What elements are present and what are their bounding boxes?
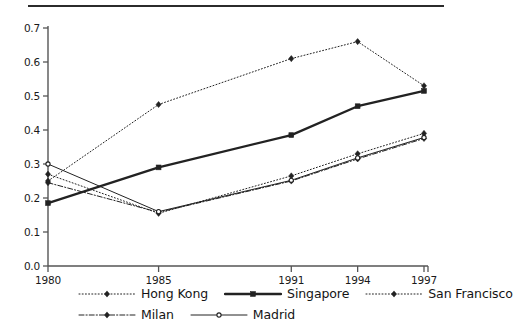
legend-label: San Francisco bbox=[428, 286, 513, 301]
x-tick-label: 1980 bbox=[25, 274, 71, 286]
series-line bbox=[48, 42, 424, 181]
data-point-marker bbox=[355, 39, 360, 45]
series-madrid bbox=[46, 135, 426, 213]
data-point-marker bbox=[289, 56, 294, 62]
data-point-marker bbox=[289, 133, 294, 138]
legend-item-madrid[interactable]: Madrid bbox=[190, 307, 295, 322]
legend-line-sample bbox=[78, 309, 136, 321]
legend-row: MilanMadrid bbox=[78, 304, 450, 325]
y-tick-label: 0.5 bbox=[14, 90, 40, 102]
series-line bbox=[48, 133, 424, 213]
legend-item-hong-kong[interactable]: Hong Kong bbox=[78, 286, 208, 301]
data-point-marker bbox=[422, 135, 426, 139]
legend-item-milan[interactable]: Milan bbox=[78, 307, 174, 322]
legend-line-sample bbox=[190, 309, 248, 321]
series-hong-kong bbox=[45, 39, 426, 185]
data-point-marker bbox=[46, 162, 50, 166]
series-line bbox=[48, 91, 424, 203]
data-point-marker bbox=[45, 171, 50, 177]
legend-row: Hong KongSingaporeSan Francisco bbox=[78, 283, 450, 304]
legend-line-sample bbox=[78, 288, 136, 300]
legend-label: Hong Kong bbox=[141, 286, 208, 301]
legend-item-singapore[interactable]: Singapore bbox=[224, 286, 349, 301]
chart-legend: Hong KongSingaporeSan FranciscoMilanMadr… bbox=[78, 283, 450, 325]
data-point-marker bbox=[355, 104, 360, 109]
y-tick-label: 0.1 bbox=[14, 226, 40, 238]
data-point-marker bbox=[46, 201, 51, 206]
data-point-marker bbox=[421, 83, 426, 89]
y-tick-label: 0.0 bbox=[14, 260, 40, 272]
legend-label: Milan bbox=[141, 307, 174, 322]
legend-label: Singapore bbox=[287, 286, 349, 301]
legend-label: Madrid bbox=[253, 307, 295, 322]
y-tick-label: 0.4 bbox=[14, 124, 40, 136]
data-point-marker bbox=[156, 165, 161, 170]
data-point-marker bbox=[217, 312, 221, 316]
y-tick-label: 0.3 bbox=[14, 158, 40, 170]
legend-line-sample bbox=[224, 288, 282, 300]
series-san-francisco bbox=[45, 130, 426, 216]
legend-item-san-francisco[interactable]: San Francisco bbox=[365, 286, 513, 301]
y-tick-label: 0.6 bbox=[14, 56, 40, 68]
y-tick-label: 0.2 bbox=[14, 192, 40, 204]
legend-line-sample bbox=[365, 288, 423, 300]
data-point-marker bbox=[392, 290, 397, 296]
data-point-marker bbox=[104, 311, 109, 317]
y-tick-label: 0.7 bbox=[14, 22, 40, 34]
data-point-marker bbox=[356, 156, 360, 160]
data-point-marker bbox=[156, 210, 160, 214]
data-point-marker bbox=[289, 178, 293, 182]
data-point-marker bbox=[156, 101, 161, 107]
data-point-marker bbox=[251, 291, 256, 296]
chart-series bbox=[45, 39, 426, 217]
data-point-marker bbox=[104, 290, 109, 296]
